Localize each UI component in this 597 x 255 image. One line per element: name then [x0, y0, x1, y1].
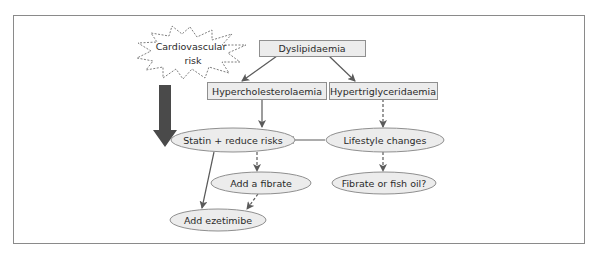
lifestyle-node: Lifestyle changes: [326, 128, 444, 152]
hypercholesterolaemia-node: Hypercholesterolaemia: [208, 83, 327, 100]
add-ezetimibe-node: Add ezetimibe: [170, 209, 266, 231]
cv-risk-label-line2: risk: [185, 55, 202, 66]
add-fibrate-label: Add a fibrate: [230, 178, 292, 189]
statin-label: Statin + reduce risks: [183, 135, 283, 146]
add-fibrate-node: Add a fibrate: [211, 172, 311, 194]
dyslipidaemia-label: Dyslipidaemia: [278, 43, 345, 54]
lifestyle-label: Lifestyle changes: [344, 135, 427, 146]
flowchart-canvas: Cardiovascular risk Dyslipidaemia Hyperc…: [0, 0, 597, 255]
statin-node: Statin + reduce risks: [171, 128, 295, 152]
hypertriglyceridaemia-label: Hypertriglyceridaemia: [330, 86, 436, 97]
add-ezetimibe-label: Add ezetimibe: [184, 215, 252, 226]
fibrate-or-fish-oil-label: Fibrate or fish oil?: [342, 178, 427, 189]
cv-risk-label-line1: Cardiovascular: [156, 41, 227, 52]
fibrate-or-fish-oil-node: Fibrate or fish oil?: [332, 172, 436, 194]
hypercholesterolaemia-label: Hypercholesterolaemia: [212, 86, 322, 97]
dyslipidaemia-node: Dyslipidaemia: [260, 41, 366, 57]
hypertriglyceridaemia-node: Hypertriglyceridaemia: [330, 83, 438, 100]
